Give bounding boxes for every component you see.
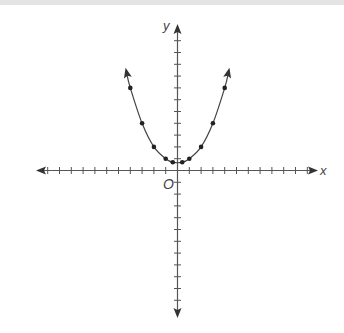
coordinate-plane (0, 0, 344, 333)
data-point (222, 86, 227, 91)
data-point (180, 160, 185, 165)
data-point (152, 145, 157, 150)
data-point (128, 86, 133, 91)
data-point (187, 156, 192, 161)
data-point (163, 156, 168, 161)
data-point (211, 121, 216, 126)
x-axis-label: x (320, 163, 327, 178)
data-point (199, 145, 204, 150)
y-axis-label: y (163, 18, 170, 33)
origin-label: O (163, 176, 174, 192)
data-point (140, 121, 145, 126)
data-point (170, 160, 175, 165)
